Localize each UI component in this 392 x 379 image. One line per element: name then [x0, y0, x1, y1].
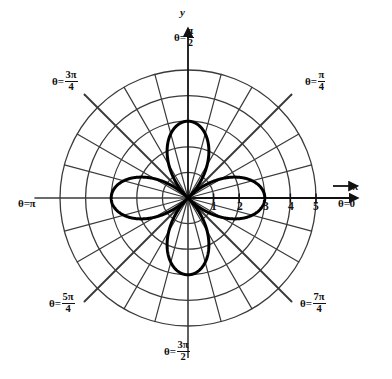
fraction: 5π4 — [62, 292, 75, 314]
equals-sign: = — [55, 297, 61, 309]
theta-value: π — [30, 197, 36, 209]
polar-grid-and-curve — [0, 0, 392, 379]
theta-label-0: θ=0 — [338, 198, 355, 209]
x-tick-label-5: 5 — [313, 200, 319, 212]
x-axis-label: x — [353, 180, 359, 192]
denominator: 4 — [65, 82, 78, 93]
numerator: 7π — [313, 292, 326, 304]
denominator: 2 — [177, 352, 190, 363]
x-tick-label-3: 3 — [263, 200, 269, 212]
x-tick-label-2: 2 — [237, 200, 243, 212]
x-tick-label-1: 1 — [211, 200, 217, 212]
fraction: 3π4 — [65, 70, 78, 92]
theta-label-pi-4: θ=π4 — [305, 71, 325, 93]
theta-label-3pi-4: θ=3π4 — [52, 71, 78, 93]
equals-sign: = — [58, 75, 64, 87]
equals-sign: = — [170, 345, 176, 357]
fraction: 3π2 — [177, 340, 190, 362]
equals-sign: = — [311, 75, 317, 87]
equals-sign: = — [306, 297, 312, 309]
numerator: 3π — [177, 340, 190, 352]
equals-sign: = — [180, 31, 186, 43]
numerator: π — [187, 26, 195, 38]
theta-label-pi: θ=π — [18, 198, 36, 209]
theta-label-3pi-2: θ=3π2 — [164, 341, 190, 363]
y-axis-label: y — [180, 6, 185, 18]
fraction: π4 — [318, 70, 326, 92]
numerator: 5π — [62, 292, 75, 304]
theta-label-5pi-4: θ=5π4 — [49, 293, 75, 315]
numerator: 3π — [65, 70, 78, 82]
theta-label-7pi-4: θ=7π4 — [300, 293, 326, 315]
polar-plot-figure: x y 1 2 3 4 5 θ=0 θ=π4 θ=π2 θ=3π4 θ=π θ=… — [0, 0, 392, 379]
denominator: 4 — [62, 304, 75, 315]
numerator: π — [318, 70, 326, 82]
theta-label-pi-2: θ=π2 — [174, 27, 194, 49]
theta-value: 0 — [350, 197, 356, 209]
fraction: π2 — [187, 26, 195, 48]
fraction: 7π4 — [313, 292, 326, 314]
denominator: 4 — [313, 304, 326, 315]
denominator: 4 — [318, 82, 326, 93]
x-tick-label-4: 4 — [288, 200, 294, 212]
denominator: 2 — [187, 38, 195, 49]
